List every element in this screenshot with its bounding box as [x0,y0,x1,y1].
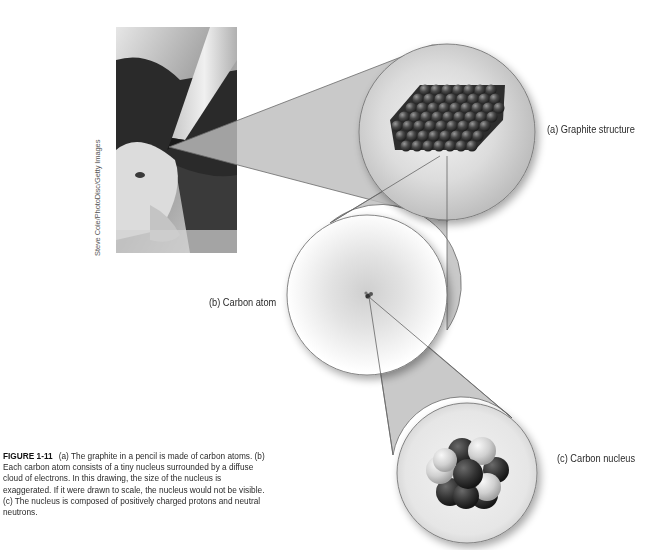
photo-credit: Steve Cole/PhotoDisc/Getty Images [93,140,102,256]
label-graphite-structure: (a) Graphite structure [547,123,635,135]
figure-caption: FIGURE 1-11 (a) The graphite in a pencil… [3,451,270,518]
figure-number: FIGURE 1-11 [3,451,53,461]
figure-1-11: Steve Cole/PhotoDisc/Getty Images (a) Gr… [0,0,660,550]
label-carbon-nucleus: (c) Carbon nucleus [557,452,635,464]
label-carbon-atom: (b) Carbon atom [209,296,276,308]
